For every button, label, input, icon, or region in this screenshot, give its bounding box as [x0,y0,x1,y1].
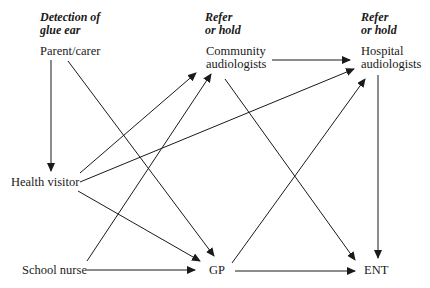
edge-health-visitor-to-gp [78,191,200,261]
node-line: audiologists [361,58,421,71]
edge-community-to-ent [225,79,355,260]
header-refer-or-hold-community: Refer or hold [205,11,241,37]
edge-gp-to-hospital [232,79,365,263]
header-detection: Detection of glue ear [40,11,100,37]
figure-caption-faded [50,278,370,284]
node-hospital-audiologists: Hospital audiologists [361,45,421,71]
node-gp: GP [209,264,225,277]
edge-health-visitor-to-hospital [80,69,354,182]
header-line: or hold [361,24,397,37]
node-line: audiologists [206,58,266,71]
header-refer-or-hold-hospital: Refer or hold [361,11,397,37]
node-community-audiologists: Community audiologists [206,45,266,71]
header-line: or hold [205,24,241,37]
node-school-nurse: School nurse [22,264,87,277]
header-line: glue ear [40,24,100,37]
edge-school-nurse-to-community [87,74,211,261]
node-parent-carer: Parent/carer [40,45,100,58]
node-health-visitor: Health visitor [11,176,79,189]
node-ent: ENT [364,264,388,277]
